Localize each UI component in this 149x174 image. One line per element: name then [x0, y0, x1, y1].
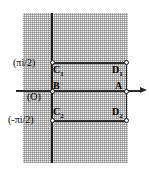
point-label-d2: D2 — [112, 107, 123, 120]
point-label-d1: D1 — [112, 65, 123, 78]
point-label-d1-subscript: 1 — [119, 70, 123, 78]
point-label-a: A — [115, 81, 122, 91]
contour-segment-a-d2 — [126, 91, 128, 121]
vertex-marker-a — [124, 89, 129, 94]
contour-segment-d1-a — [126, 62, 128, 91]
vertex-marker-d2 — [124, 118, 129, 123]
vertex-marker-d1 — [124, 60, 129, 65]
real-axis-arrow-icon — [140, 87, 147, 93]
point-label-c1: C1 — [53, 65, 64, 78]
contour-segment-c2-d2 — [52, 120, 127, 122]
contour-diagram-figure: (πi/2) (O) (-πi/2) C1 B C2 D1 A D2 — [0, 0, 149, 174]
point-label-c2-subscript: 2 — [60, 112, 64, 120]
point-label-a-letter: A — [115, 80, 122, 91]
axis-label-pi-over-2: (πi/2) — [13, 58, 35, 68]
point-label-c1-subscript: 1 — [60, 70, 64, 78]
point-label-c2: C2 — [53, 107, 64, 120]
point-label-b: B — [53, 81, 60, 91]
axis-label-origin: (O) — [27, 92, 41, 102]
axis-label-neg-pi-over-2: (-πi/2) — [8, 115, 34, 125]
point-label-d2-subscript: 2 — [119, 112, 123, 120]
point-label-b-letter: B — [53, 80, 60, 91]
shaded-region — [23, 13, 128, 163]
